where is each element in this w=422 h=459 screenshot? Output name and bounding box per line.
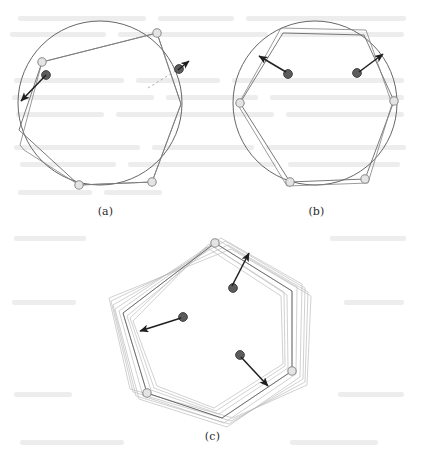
- panel-c-caption: (c): [105, 430, 320, 443]
- panel-c-arrow-upper-right: [232, 253, 249, 286]
- panel-a-circle: [18, 21, 182, 185]
- panel-b-vertex-open-bottom-left: [286, 178, 294, 186]
- panel-b-vertex-open-bottom-right: [361, 175, 369, 183]
- panel-a-vertex-open-bottom-right: [148, 178, 156, 186]
- panel-a-vertex-open-top-right: [153, 29, 161, 37]
- panel-c-vertex-dark-middle: [179, 313, 188, 322]
- panel-b-vertex-dark-right: [353, 69, 362, 78]
- panel-c-iteration-bundle: [109, 238, 311, 427]
- panel-c-vertex-open-top: [211, 239, 219, 247]
- page-bleed-text: [10, 16, 406, 445]
- panel-a-caption: (a): [0, 205, 211, 218]
- panel-b-polygon: [240, 33, 394, 182]
- panel-c-vertex-open-left: [143, 389, 151, 397]
- panel-b-vertex-open-left: [236, 99, 244, 107]
- panel-c-vertex-open-right: [288, 367, 296, 375]
- figure-root: (a) (b) (c): [0, 0, 422, 459]
- panel-c: [109, 238, 311, 427]
- panel-c-arrow-left: [140, 318, 181, 331]
- panel-b-caption: (b): [211, 205, 422, 218]
- panel-c-vertex-dark-lower: [236, 351, 245, 360]
- figure-svg: [0, 0, 422, 459]
- panel-a-vertex-open-upper-left: [38, 58, 46, 66]
- panel-b-circle: [233, 21, 397, 185]
- panel-b: [233, 21, 398, 186]
- panel-a-vertex-open-bottom-left: [75, 181, 83, 189]
- panel-b-vertex-open-right: [390, 97, 398, 105]
- panel-b-arrow-left-inward: [259, 56, 286, 72]
- panel-c-arrow-lower-right: [241, 357, 268, 386]
